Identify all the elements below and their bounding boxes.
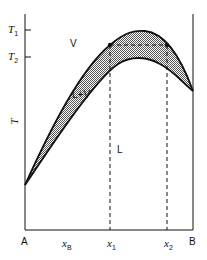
region-liquid-label: L <box>117 145 123 155</box>
x-marker-xb: xB <box>62 238 72 251</box>
region-vapor-label: V <box>70 39 77 49</box>
y-axis-label: T <box>9 118 20 124</box>
point-x1 <box>108 43 112 47</box>
tick-label-t1: T1 <box>8 24 18 37</box>
x-marker-x1: x1 <box>107 238 116 251</box>
region-two-phase-label: L+V <box>72 90 90 100</box>
bubble-curve <box>25 58 193 185</box>
point-x2 <box>165 43 169 47</box>
x-right-label-b: B <box>189 237 196 247</box>
x-marker-x2: x2 <box>164 238 173 251</box>
x-left-label-a: A <box>21 237 28 247</box>
two-phase-region <box>25 31 193 185</box>
phase-diagram <box>0 0 207 260</box>
tick-label-t2: T2 <box>8 51 18 64</box>
